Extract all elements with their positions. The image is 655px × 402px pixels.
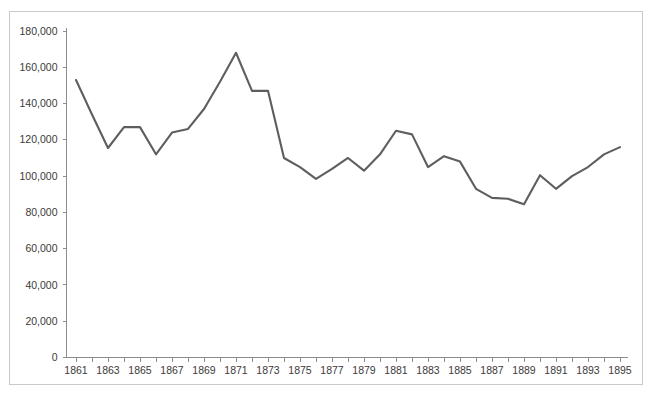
x-axis-tick-label: 1881 — [384, 364, 408, 376]
x-axis-tick-label: 1867 — [160, 364, 184, 376]
y-axis-tick-label: 140,000 — [20, 97, 58, 109]
y-axis-tick-labels: 020,00040,00060,00080,000100,000120,0001… — [20, 25, 58, 364]
x-axis-tick-label: 1883 — [416, 364, 440, 376]
y-axis-tick-label: 40,000 — [25, 279, 57, 291]
x-axis-tick-label: 1887 — [480, 364, 504, 376]
y-axis-group: 020,00040,00060,00080,000100,000120,0001… — [20, 25, 67, 364]
y-axis-tick-label: 80,000 — [25, 206, 57, 218]
x-axis-tick-label: 1879 — [352, 364, 376, 376]
x-axis-tick-labels: 1861186318651867186918711873187518771879… — [64, 364, 632, 376]
y-axis-ticks — [63, 31, 67, 358]
line-chart: 020,00040,00060,00080,000100,000120,0001… — [0, 0, 655, 402]
y-axis-tick-label: 120,000 — [20, 133, 58, 145]
y-axis-tick-label: 20,000 — [25, 315, 57, 327]
y-axis-tick-label: 60,000 — [25, 242, 57, 254]
data-line-series-1 — [76, 53, 620, 204]
x-axis-tick-label: 1873 — [256, 364, 280, 376]
y-axis-tick-label: 160,000 — [20, 61, 58, 73]
x-axis-tick-label: 1865 — [128, 364, 152, 376]
y-axis-tick-label: 100,000 — [20, 170, 58, 182]
x-axis-group: 1861186318651867186918711873187518771879… — [64, 358, 632, 376]
x-axis-tick-label: 1875 — [288, 364, 312, 376]
y-axis-tick-label: 0 — [52, 351, 58, 363]
x-axis-tick-label: 1891 — [544, 364, 568, 376]
x-axis-tick-label: 1893 — [576, 364, 600, 376]
chart-page: 020,00040,00060,00080,000100,000120,0001… — [0, 0, 655, 402]
x-axis-tick-label: 1889 — [512, 364, 536, 376]
y-axis-tick-label: 180,000 — [20, 25, 58, 37]
x-axis-tick-label: 1877 — [320, 364, 344, 376]
x-axis-tick-label: 1885 — [448, 364, 472, 376]
x-axis-tick-label: 1871 — [224, 364, 248, 376]
x-axis-tick-label: 1895 — [608, 364, 632, 376]
x-axis-ticks — [76, 358, 620, 362]
data-series-group — [76, 53, 620, 204]
x-axis-tick-label: 1861 — [64, 364, 88, 376]
x-axis-tick-label: 1863 — [96, 364, 120, 376]
x-axis-tick-label: 1869 — [192, 364, 216, 376]
